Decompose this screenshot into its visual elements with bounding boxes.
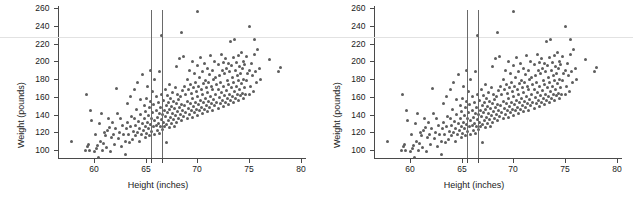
scatter-point: [192, 105, 195, 108]
scatter-point: [572, 48, 575, 51]
scatter-point: [243, 63, 246, 66]
scatter-point: [128, 141, 131, 144]
scatter-point: [507, 60, 510, 63]
scatter-point: [541, 67, 544, 70]
scatter-point: [137, 120, 140, 123]
scatter-point: [571, 81, 574, 84]
scatter-point: [502, 117, 505, 120]
scatter-point: [515, 56, 518, 59]
scatter-point: [445, 95, 448, 98]
scatter-point: [125, 127, 128, 130]
scatter-point: [536, 91, 539, 94]
scatter-point: [423, 117, 426, 120]
scatter-point: [409, 150, 412, 153]
scatter-point: [548, 81, 551, 84]
scatter-point: [560, 93, 563, 96]
scatter-point: [518, 82, 521, 85]
scatter-point: [504, 113, 507, 116]
scatter-point: [178, 57, 181, 60]
scatter-point: [459, 104, 462, 107]
scatter-point: [132, 130, 135, 133]
scatter-point: [426, 136, 429, 139]
scatter-point: [110, 136, 113, 139]
scatter-point: [87, 143, 90, 146]
scatter-point: [253, 38, 256, 41]
scatter-point: [448, 130, 451, 133]
scatter-point: [556, 51, 559, 54]
scatter-point: [201, 93, 204, 96]
scatter-point: [497, 89, 500, 92]
scatter-point: [512, 64, 515, 67]
panel-right: 1001201401601802002202402606065707580Hei…: [316, 0, 632, 204]
scatter-point: [117, 137, 120, 140]
scatter-point: [522, 67, 525, 70]
scatter-point: [229, 40, 232, 43]
scatter-point: [165, 104, 168, 107]
scatter-point: [218, 74, 221, 77]
scatter-point: [555, 72, 558, 75]
scatter-point: [182, 55, 185, 58]
scatter-point: [441, 127, 444, 130]
scatter-point: [135, 108, 138, 111]
scatter-point: [145, 97, 148, 100]
scatter-point: [406, 119, 409, 122]
scatter-point: [121, 124, 124, 127]
scatter-point: [252, 90, 255, 93]
scatter-point: [164, 88, 167, 91]
scatter-points-layer: [316, 0, 632, 204]
scatter-point: [187, 88, 190, 91]
scatter-point: [256, 48, 259, 51]
scatter-point: [463, 114, 466, 117]
scatter-point: [527, 88, 530, 91]
scatter-point: [484, 83, 487, 86]
scatter-point: [410, 133, 413, 136]
scatter-point: [457, 73, 460, 76]
scatter-point: [155, 109, 158, 112]
scatter-point: [232, 101, 235, 104]
reference-vline: [478, 10, 479, 158]
scatter-point: [491, 102, 494, 105]
scatter-point: [201, 70, 204, 73]
scatter-point: [164, 115, 167, 118]
scatter-point: [442, 102, 445, 105]
scatter-point: [139, 113, 142, 116]
scatter-point: [562, 72, 565, 75]
scatter-point: [519, 62, 522, 65]
scatter-point: [522, 110, 525, 113]
scatter-point: [386, 140, 389, 143]
scatter-point: [507, 116, 510, 119]
scatter-point: [222, 105, 225, 108]
scatter-point: [180, 31, 183, 34]
scatter-point: [217, 107, 220, 110]
scatter-point: [143, 117, 146, 120]
scatter-point: [194, 81, 197, 84]
scatter-point: [230, 64, 233, 67]
scatter-point: [506, 92, 509, 95]
scatter-point: [85, 93, 88, 96]
scatter-point: [570, 70, 573, 73]
scatter-point: [233, 38, 236, 41]
scatter-point: [575, 78, 578, 81]
scatter-point: [104, 134, 107, 137]
scatter-point: [191, 116, 194, 119]
scatter-point: [228, 70, 231, 73]
scatter-point: [114, 127, 117, 130]
scatter-point: [155, 95, 158, 98]
scatter-point: [215, 83, 218, 86]
scatter-point: [493, 98, 496, 101]
scatter-point: [224, 57, 227, 60]
scatter-point: [93, 150, 96, 153]
scatter-point: [561, 55, 564, 58]
scatter-point: [480, 115, 483, 118]
scatter-point: [430, 127, 433, 130]
scatter-point: [517, 70, 520, 73]
scatter-point: [242, 97, 245, 100]
scatter-point: [551, 61, 554, 64]
scatter-point: [106, 129, 109, 132]
scatter-point: [230, 86, 233, 89]
scatter-point: [268, 58, 271, 61]
scatter-point: [543, 83, 546, 86]
scatter-point: [509, 72, 512, 75]
scatter-point: [574, 67, 577, 70]
scatter-point: [226, 79, 229, 82]
